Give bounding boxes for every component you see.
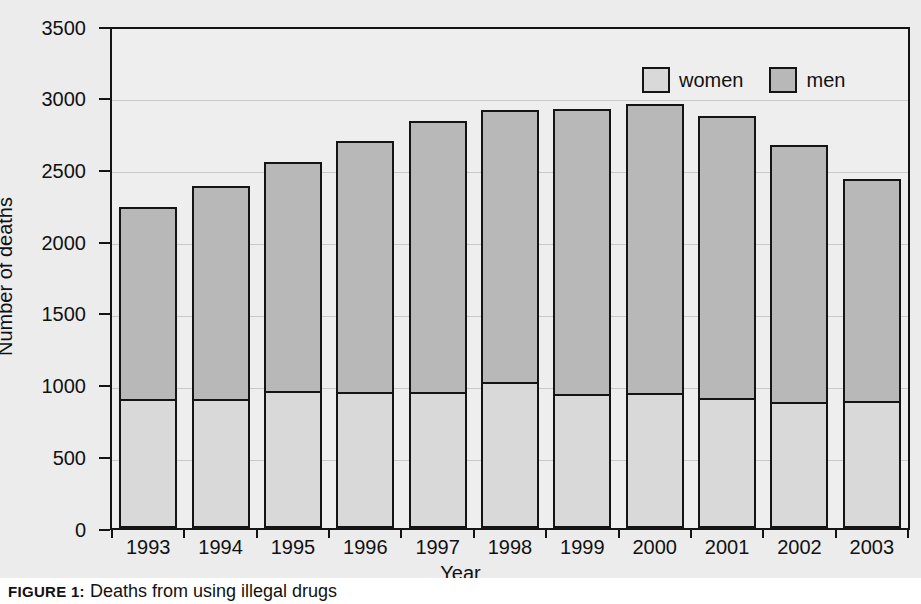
bar-segment-men-1993	[121, 209, 175, 400]
y-tick-label-0: 0	[0, 519, 86, 542]
y-tick-mark-3000	[99, 98, 110, 100]
y-tick-mark-0	[99, 529, 110, 531]
x-tick-label-1994: 1994	[198, 536, 243, 559]
y-tick-label-3500: 3500	[0, 17, 86, 40]
legend-entry-women: women	[642, 67, 743, 93]
bar-segment-women-2003	[845, 403, 899, 526]
bar-segment-women-2000	[628, 395, 682, 526]
bar-1999	[553, 109, 611, 528]
x-tick-label-2002: 2002	[777, 536, 822, 559]
x-tick-mark-2001	[762, 530, 764, 538]
figure-container: 0 500 1000 1500 2000 2500 3000 3500 Numb…	[0, 0, 921, 604]
x-tick-label-1996: 1996	[343, 536, 388, 559]
bar-segment-men-2002	[772, 147, 826, 404]
bar-2001	[698, 116, 756, 528]
bar-segment-women-2002	[772, 404, 826, 526]
bar-1994	[192, 186, 250, 528]
x-tick-mark-1997	[473, 530, 475, 538]
bar-1993	[119, 207, 177, 528]
bar-segment-women-1997	[411, 394, 465, 526]
x-tick-label-1997: 1997	[415, 536, 460, 559]
bar-segment-men-2000	[628, 106, 682, 395]
bar-segment-women-1995	[266, 393, 320, 526]
bar-segment-men-1996	[338, 143, 392, 394]
x-tick-label-2003: 2003	[850, 536, 895, 559]
x-tick-mark-1999	[618, 530, 620, 538]
bar-segment-men-1998	[483, 112, 537, 385]
y-tick-mark-2000	[99, 242, 110, 244]
y-tick-mark-2500	[99, 170, 110, 172]
y-tick-mark-1000	[99, 385, 110, 387]
x-tick-mark-1994	[256, 530, 258, 538]
y-axis-title: Number of deaths	[0, 67, 17, 487]
bar-segment-women-1994	[194, 401, 248, 526]
bar-segment-women-1999	[555, 396, 609, 526]
x-tick-label-1999: 1999	[560, 536, 605, 559]
legend: women men	[636, 65, 851, 95]
legend-swatch-men-icon	[769, 67, 797, 93]
x-tick-mark-1998	[545, 530, 547, 538]
y-tick-mark-3500	[99, 27, 110, 29]
y-tick-mark-1500	[99, 313, 110, 315]
figure-caption-text: Deaths from using illegal drugs	[90, 581, 337, 601]
x-tick-mark-2002	[835, 530, 837, 538]
bar-segment-women-1996	[338, 394, 392, 526]
bar-1996	[336, 141, 394, 528]
bar-segment-men-2003	[845, 181, 899, 402]
x-tick-mark-2003	[907, 530, 909, 538]
bar-2003	[843, 179, 901, 528]
x-tick-label-1993: 1993	[126, 536, 171, 559]
legend-swatch-women-icon	[642, 67, 670, 93]
x-tick-mark-1993	[183, 530, 185, 538]
x-tick-mark-1995	[328, 530, 330, 538]
bar-segment-men-1994	[194, 188, 248, 401]
bar-1997	[409, 121, 467, 528]
bar-segment-men-1999	[555, 111, 609, 396]
bar-segment-women-1993	[121, 401, 175, 526]
bar-2000	[626, 104, 684, 528]
x-tick-label-1995: 1995	[271, 536, 316, 559]
bar-segment-men-1997	[411, 123, 465, 394]
x-tick-mark-2000	[690, 530, 692, 538]
figure-caption: FIGURE 1: Deaths from using illegal drug…	[8, 581, 337, 602]
bar-segment-women-1998	[483, 384, 537, 526]
x-tick-mark-origin	[111, 530, 113, 538]
legend-label-women: women	[679, 69, 743, 92]
gridline-3000	[112, 100, 908, 101]
x-tick-mark-1996	[400, 530, 402, 538]
x-tick-label-2000: 2000	[632, 536, 677, 559]
x-tick-label-2001: 2001	[705, 536, 750, 559]
bar-1998	[481, 110, 539, 528]
bar-segment-men-2001	[700, 118, 754, 400]
bar-1995	[264, 162, 322, 528]
caption-band: FIGURE 1: Deaths from using illegal drug…	[0, 578, 921, 604]
y-tick-mark-500	[99, 457, 110, 459]
legend-entry-men: men	[769, 67, 845, 93]
bar-segment-men-1995	[266, 164, 320, 393]
x-tick-label-1998: 1998	[488, 536, 533, 559]
figure-caption-prefix: FIGURE 1:	[8, 583, 85, 600]
bar-2002	[770, 145, 828, 528]
plot-area: women men	[110, 27, 910, 530]
bar-segment-women-2001	[700, 400, 754, 526]
legend-label-men: men	[806, 69, 845, 92]
